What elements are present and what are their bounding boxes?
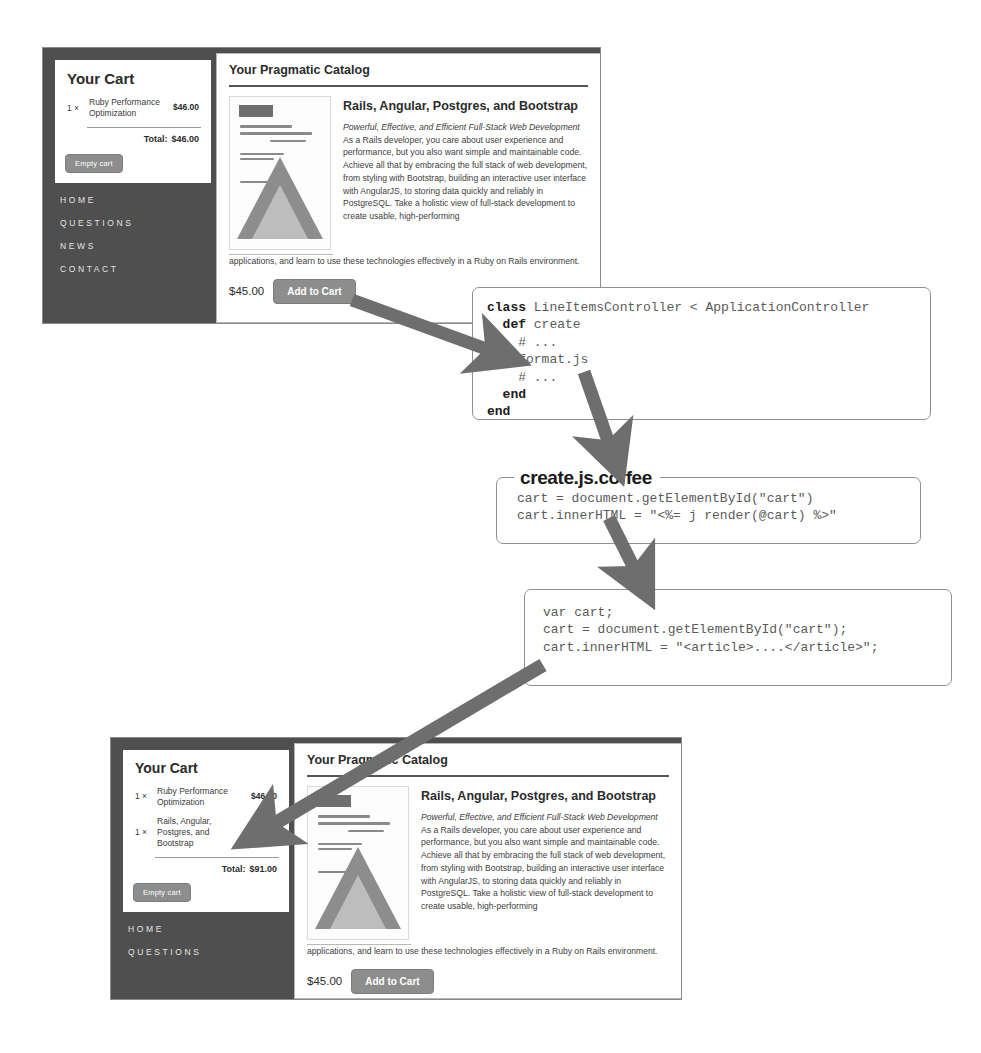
cart-item-title: Ruby Performance Optimization <box>87 97 169 128</box>
nav-item-home[interactable]: HOME <box>60 195 216 205</box>
cover-text-line <box>270 140 306 142</box>
cart-item-price: $46.00 <box>169 97 201 128</box>
cart-item-qty: 1 × <box>133 786 155 816</box>
buy-row: $45.00 Add to Cart <box>307 969 669 994</box>
code-line: cart.innerHTML = "<article>....</article… <box>543 640 878 655</box>
code-line: # ... <box>487 370 557 385</box>
nav-item-contact[interactable]: CONTACT <box>60 264 216 274</box>
cart-item-title: Ruby Performance Optimization <box>155 786 247 816</box>
cart-item-price: $46.00 <box>247 786 279 816</box>
publisher-badge-icon <box>239 105 273 117</box>
cover-text-line <box>318 815 370 818</box>
empty-cart-button[interactable]: Empty cart <box>133 883 191 902</box>
code-line: end <box>487 387 526 402</box>
book-cover <box>307 786 411 945</box>
code-block-compiled-js: var cart; cart = document.getElementById… <box>524 589 952 686</box>
code-line: format.js <box>487 352 588 367</box>
empty-cart-button[interactable]: Empty cart <box>65 154 123 173</box>
pyramid-illustration-inner-icon <box>330 875 386 929</box>
sidebar-after: Your Cart 1 × Ruby Performance Optimizat… <box>116 743 294 999</box>
book-description-text: As a Rails developer, you care about use… <box>343 135 587 221</box>
cover-text-line <box>348 830 384 832</box>
publisher-badge-icon <box>317 795 351 807</box>
cart-panel-before: Your Cart 1 × Ruby Performance Optimizat… <box>55 60 211 183</box>
catalog-entry: Rails, Angular, Postgres, and Bootstrap … <box>229 96 588 255</box>
cart-line-item: 1 × Ruby Performance Optimization $46.00 <box>133 786 279 816</box>
cart-item-qty: 1 × <box>65 97 87 128</box>
cover-text-line <box>240 125 292 128</box>
cart-item-qty: 1 × <box>133 816 155 857</box>
book-price: $45.00 <box>307 975 342 987</box>
nav-item-news[interactable]: NEWS <box>60 241 216 251</box>
add-to-cart-button[interactable]: Add to Cart <box>351 969 433 994</box>
cart-line-item: 1 × Ruby Performance Optimization $46.00 <box>65 97 201 128</box>
catalog-panel-before: Your Pragmatic Catalog Rails, Angular, P… <box>216 53 600 323</box>
code-line: end <box>487 404 510 419</box>
cart-total-spacer <box>133 858 155 880</box>
catalog-panel-after: Your Pragmatic Catalog Rails, Angular, P… <box>294 743 681 999</box>
book-subtitle: Powerful, Effective, and Efficient Full-… <box>343 122 580 132</box>
catalog-heading: Your Pragmatic Catalog <box>307 753 669 777</box>
cover-text-line <box>318 843 362 845</box>
code-block-coffee: create.js.coffeecart = document.getEleme… <box>496 477 921 544</box>
cart-table: 1 × Ruby Performance Optimization $46.00… <box>133 786 279 879</box>
book-cover <box>229 96 333 255</box>
nav-links-before: HOME QUESTIONS NEWS CONTACT <box>48 183 216 274</box>
code-line: class LineItemsController < ApplicationC… <box>487 300 869 315</box>
book-description: Powerful, Effective, and Efficient Full-… <box>421 811 669 913</box>
book-cover-art <box>229 96 331 250</box>
catalog-entry: Rails, Angular, Postgres, and Bootstrap … <box>307 786 669 945</box>
cover-text-line <box>240 132 312 135</box>
code-line: cart.innerHTML = "<%= j render(@cart) %>… <box>517 508 837 523</box>
sidebar-before: Your Cart 1 × Ruby Performance Optimizat… <box>48 53 216 323</box>
browser-screenshot-before: Your Cart 1 × Ruby Performance Optimizat… <box>42 47 601 324</box>
book-title: Rails, Angular, Postgres, and Bootstrap <box>421 789 669 803</box>
nav-links-after: HOME QUESTIONS <box>116 912 294 957</box>
code-line: var cart; <box>543 605 613 620</box>
cart-table: 1 × Ruby Performance Optimization $46.00… <box>65 97 201 150</box>
add-to-cart-button[interactable]: Add to Cart <box>273 279 355 304</box>
book-title: Rails, Angular, Postgres, and Bootstrap <box>343 99 588 113</box>
code-line: cart = document.getElementById("cart") <box>517 491 813 506</box>
cart-item-price: $45.00 <box>247 816 279 857</box>
cart-heading: Your Cart <box>67 70 201 87</box>
cart-total-value: $91.00 <box>247 858 279 880</box>
nav-item-home[interactable]: HOME <box>128 924 294 934</box>
book-description: Powerful, Effective, and Efficient Full-… <box>343 121 588 223</box>
nav-item-questions[interactable]: QUESTIONS <box>60 218 216 228</box>
cart-line-item: 1 × Rails, Angular, Postgres, and Bootst… <box>133 816 279 857</box>
catalog-heading: Your Pragmatic Catalog <box>229 63 588 87</box>
cart-item-title: Rails, Angular, Postgres, and Bootstrap <box>155 816 247 857</box>
cart-total-row: Total: $46.00 <box>65 128 201 150</box>
code-line: def create <box>487 317 581 332</box>
cart-total-label: Total: <box>87 128 169 150</box>
cover-text-line <box>318 822 390 825</box>
book-description-text: As a Rails developer, you care about use… <box>421 825 665 911</box>
book-description-tail: applications, and learn to use these tec… <box>307 945 669 958</box>
code-line: # ... <box>487 335 557 350</box>
cart-panel-after: Your Cart 1 × Ruby Performance Optimizat… <box>123 750 289 912</box>
cart-total-row: Total: $91.00 <box>133 858 279 880</box>
code-block-coffee-legend: create.js.coffee <box>514 465 660 490</box>
nav-item-questions[interactable]: QUESTIONS <box>128 947 294 957</box>
book-price: $45.00 <box>229 285 264 297</box>
book-subtitle: Powerful, Effective, and Efficient Full-… <box>421 812 658 822</box>
cart-total-spacer <box>65 128 87 150</box>
browser-screenshot-after: Your Cart 1 × Ruby Performance Optimizat… <box>110 737 682 1000</box>
cart-heading: Your Cart <box>135 760 279 776</box>
cart-total-label: Total: <box>155 858 247 880</box>
cart-total-value: $46.00 <box>169 128 201 150</box>
book-description-tail: applications, and learn to use these tec… <box>229 255 588 268</box>
code-block-controller: class LineItemsController < ApplicationC… <box>472 287 931 420</box>
cover-text-line <box>240 153 284 155</box>
book-cover-art <box>307 786 409 940</box>
pyramid-illustration-inner-icon <box>252 185 308 239</box>
code-line: cart = document.getElementById("cart"); <box>543 622 847 637</box>
